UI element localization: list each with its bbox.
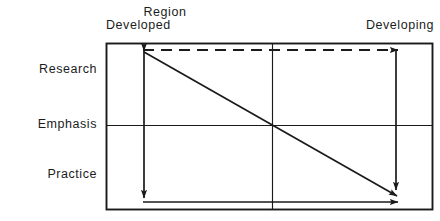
diagram-canvas — [0, 0, 440, 221]
plot-frame — [107, 44, 433, 210]
arrow-emphasis-trend-diagonal — [144, 52, 397, 196]
emphasis-region-diagram: Region Developed Developing Research Emp… — [0, 0, 440, 221]
